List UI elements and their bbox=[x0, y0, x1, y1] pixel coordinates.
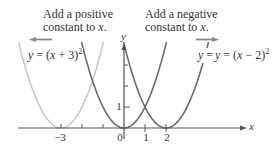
left-shift-arrow-icon bbox=[29, 37, 52, 42]
equation-label-shift-left: y = (x + 3)2 bbox=[27, 48, 83, 63]
annotation-negative-shift: Add a negative constant to x. bbox=[145, 8, 218, 34]
y-axis-arrow-icon bbox=[122, 43, 127, 50]
parabola-shift-chart bbox=[0, 0, 277, 148]
x-tick-label-0: 0 bbox=[117, 131, 123, 143]
x-tick-label-2: 2 bbox=[164, 131, 170, 143]
right-shift-arrow-icon bbox=[196, 37, 219, 42]
y-axis-label: y bbox=[121, 30, 126, 42]
y-ticks bbox=[124, 65, 130, 107]
annotation-positive-line2: constant to x. bbox=[43, 21, 113, 34]
y-tick-label-1: 1 bbox=[116, 100, 122, 112]
x-tick-label-1: 1 bbox=[143, 131, 149, 143]
parabola-curve-2 bbox=[124, 42, 209, 128]
equation-label-shift-right: y = (x − 2)2 bbox=[214, 48, 270, 63]
x-axis-arrow-icon bbox=[240, 126, 247, 131]
x-axis-label: x bbox=[249, 120, 254, 132]
annotation-positive-shift: Add a positive constant to x. bbox=[43, 8, 113, 34]
x-tick-label-neg3: −3 bbox=[54, 131, 66, 143]
annotation-negative-line2: constant to x. bbox=[145, 21, 218, 34]
